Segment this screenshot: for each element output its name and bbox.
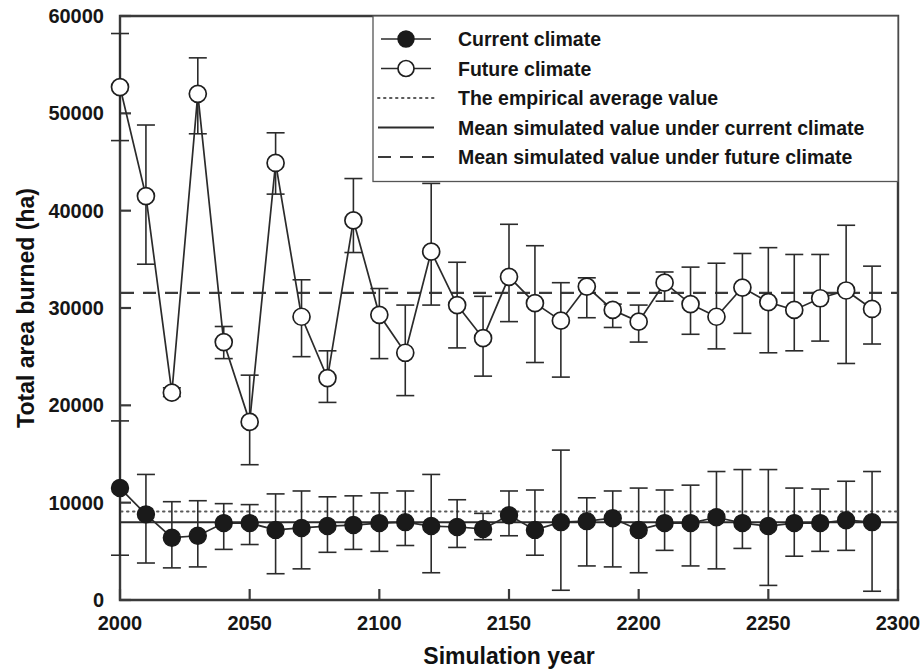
data-point-future <box>760 294 777 311</box>
data-point-current <box>682 515 699 532</box>
data-point-current <box>397 514 414 531</box>
x-tick-label: 2050 <box>227 612 272 634</box>
legend-marker-open-circle <box>398 61 414 77</box>
data-point-current <box>267 521 284 538</box>
legend-item-label: Current climate <box>458 28 601 50</box>
data-point-current <box>760 518 777 535</box>
data-point-future <box>786 301 803 318</box>
data-point-future <box>630 313 647 330</box>
data-point-current <box>708 509 725 526</box>
y-tick-label: 30000 <box>48 297 104 319</box>
data-point-future <box>189 85 206 102</box>
data-point-future <box>319 370 336 387</box>
data-point-current <box>552 514 569 531</box>
y-tick-label: 40000 <box>48 200 104 222</box>
data-point-future <box>267 154 284 171</box>
x-tick-label: 2150 <box>487 612 532 634</box>
data-point-future <box>578 278 595 295</box>
data-point-current <box>137 506 154 523</box>
legend-item-label: The empirical average value <box>458 87 718 109</box>
data-point-current <box>812 515 829 532</box>
data-point-current <box>838 512 855 529</box>
legend-item-label: Future climate <box>458 58 591 80</box>
data-point-future <box>475 330 492 347</box>
data-point-current <box>864 514 881 531</box>
y-tick-label: 0 <box>93 589 104 611</box>
total-area-burned-chart: 0100002000030000400005000060000 20002050… <box>0 0 921 672</box>
y-axis-title: Total area burned (ha) <box>13 188 39 428</box>
data-point-current <box>112 480 129 497</box>
data-point-future <box>345 212 362 229</box>
legend-marker-filled-circle <box>398 31 414 47</box>
chart-legend: Current climateFuture climateThe empiric… <box>373 16 898 182</box>
data-point-future <box>552 312 569 329</box>
data-point-future <box>501 268 518 285</box>
data-point-current <box>734 515 751 532</box>
data-point-future <box>423 243 440 260</box>
legend-item-label: Mean simulated value under future climat… <box>458 146 853 168</box>
data-point-future <box>397 344 414 361</box>
data-point-future <box>163 384 180 401</box>
data-point-current <box>345 517 362 534</box>
data-point-future <box>293 308 310 325</box>
data-point-current <box>604 510 621 527</box>
data-point-future <box>708 308 725 325</box>
data-point-current <box>189 527 206 544</box>
x-tick-label: 2200 <box>616 612 661 634</box>
data-point-current <box>630 521 647 538</box>
data-point-current <box>215 515 232 532</box>
data-point-current <box>371 515 388 532</box>
x-axis-title: Simulation year <box>423 643 594 669</box>
data-point-future <box>734 279 751 296</box>
data-point-future <box>241 413 258 430</box>
y-tick-label: 20000 <box>48 394 104 416</box>
legend-item-label: Mean simulated value under current clima… <box>458 117 865 139</box>
y-tick-label: 60000 <box>48 5 104 27</box>
x-tick-label: 2250 <box>746 612 791 634</box>
data-point-future <box>215 334 232 351</box>
data-point-future <box>604 301 621 318</box>
data-point-future <box>371 306 388 323</box>
data-point-future <box>864 300 881 317</box>
x-tick-label: 2100 <box>357 612 402 634</box>
data-point-future <box>112 79 129 96</box>
data-point-future <box>449 297 466 314</box>
data-point-current <box>449 519 466 536</box>
data-point-current <box>423 518 440 535</box>
data-point-current <box>163 529 180 546</box>
chart-page: 0100002000030000400005000060000 20002050… <box>0 0 921 672</box>
y-tick-label: 10000 <box>48 492 104 514</box>
data-point-current <box>319 518 336 535</box>
data-point-current <box>656 515 673 532</box>
x-tick-label: 2000 <box>98 612 143 634</box>
data-point-current <box>293 519 310 536</box>
data-point-current <box>526 521 543 538</box>
data-point-future <box>526 295 543 312</box>
data-point-current <box>241 515 258 532</box>
data-point-future <box>838 282 855 299</box>
y-tick-label: 50000 <box>48 102 104 124</box>
data-point-current <box>501 507 518 524</box>
x-tick-label: 2300 <box>876 612 921 634</box>
data-point-future <box>812 290 829 307</box>
data-point-future <box>682 296 699 313</box>
data-point-current <box>786 515 803 532</box>
data-point-future <box>656 274 673 291</box>
data-point-current <box>578 513 595 530</box>
data-point-current <box>475 520 492 537</box>
data-point-future <box>137 188 154 205</box>
